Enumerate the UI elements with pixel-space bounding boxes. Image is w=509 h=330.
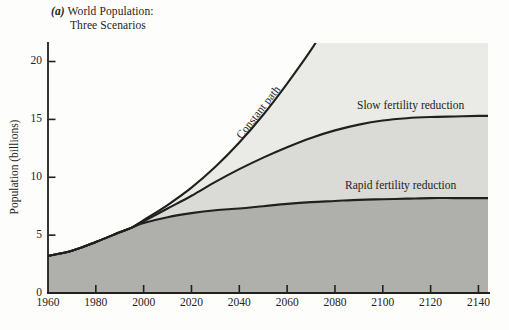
- chart-title: (a) World Population: Three Scenarios: [51, 5, 154, 32]
- chart-plot-area: [0, 0, 509, 330]
- chart-title-line2: Three Scenarios: [51, 19, 154, 33]
- figure-letter-label: (a): [51, 5, 65, 17]
- x-tick-label: 2120: [411, 296, 451, 308]
- y-tick-label: 15: [12, 112, 42, 124]
- chart-title-text: World Population:: [68, 5, 154, 17]
- annotation-rapid-fertility-reduction: Rapid fertility reduction: [345, 179, 456, 191]
- chart-svg: [0, 0, 509, 330]
- area-rapid-fertility: [48, 198, 496, 293]
- x-tick-label: 2040: [219, 296, 259, 308]
- x-tick-label: 1960: [28, 296, 68, 308]
- x-tick-label: 1980: [76, 296, 116, 308]
- x-tick-label: 2060: [267, 296, 307, 308]
- y-tick-label: 0: [12, 286, 42, 298]
- x-tick-label: 2080: [315, 296, 355, 308]
- x-tick-label: 2000: [124, 296, 164, 308]
- population-scenarios-figure: (a) World Population: Three Scenarios Po…: [0, 0, 509, 330]
- x-tick-label: 2100: [363, 296, 403, 308]
- y-tick-label: 5: [12, 228, 42, 240]
- y-axis-label: Population (billions): [8, 106, 20, 228]
- y-tick-label: 20: [12, 54, 42, 66]
- chart-title-line1: (a) World Population:: [51, 5, 154, 19]
- annotation-slow-fertility-reduction: Slow fertility reduction: [357, 99, 464, 111]
- y-tick-label: 10: [12, 170, 42, 182]
- x-tick-label: 2020: [171, 296, 211, 308]
- x-tick-label: 2140: [458, 296, 498, 308]
